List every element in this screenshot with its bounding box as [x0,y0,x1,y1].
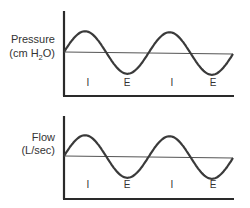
pressure-phase-label: I [171,77,174,88]
pressure-panel: Pressure (cm H2O) I E I E [9,11,234,96]
pressure-waveform [64,31,233,75]
pressure-label-line2: (cm H2O) [9,47,55,62]
pressure-phase-label: E [210,77,217,88]
pressure-label-line1: Pressure [11,33,55,45]
flow-label-line2: (L/sec) [21,144,55,156]
flow-phase-label: I [87,179,90,190]
ventilator-waveform-diagram: Pressure (cm H2O) I E I E Flow (L/sec) I… [0,0,250,208]
flow-phase-label: I [171,179,174,190]
flow-panel: Flow (L/sec) I E I E [21,116,234,199]
flow-phase-label: E [210,179,217,190]
flow-waveform [64,135,233,179]
pressure-phase-label: E [124,77,131,88]
flow-phase-label: E [124,179,131,190]
flow-label-line1: Flow [32,131,55,143]
pressure-phase-label: I [87,77,90,88]
